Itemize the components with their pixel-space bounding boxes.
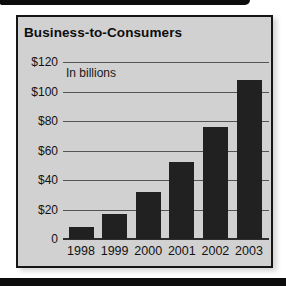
- y-tick-label: $120: [18, 54, 58, 70]
- chart-panel: 0$20$40$60$80$100$1201998199920002001200…: [16, 15, 273, 268]
- y-tick-label: $60: [18, 143, 58, 159]
- bottom-rule-bar: [0, 278, 286, 286]
- bar-2001: [169, 162, 194, 239]
- bar-2002: [203, 127, 228, 239]
- y-tick-label: $40: [18, 172, 58, 188]
- chart-title: Business-to-Consumers: [24, 25, 182, 40]
- bar-1999: [102, 214, 127, 239]
- gridline: [63, 62, 269, 63]
- y-tick-label: $20: [18, 202, 58, 218]
- top-rule-bar: [0, 0, 250, 5]
- y-tick-label: 0: [18, 231, 58, 247]
- x-tick-label: 2003: [229, 244, 269, 258]
- plot-area: 0$20$40$60$80$100$1201998199920002001200…: [18, 17, 271, 266]
- page: 0$20$40$60$80$100$1201998199920002001200…: [0, 0, 286, 286]
- y-tick-label: $100: [18, 84, 58, 100]
- bar-2000: [136, 192, 161, 239]
- units-label: In billions: [66, 66, 116, 80]
- y-tick-label: $80: [18, 113, 58, 129]
- bar-2003: [237, 80, 262, 239]
- bar-1998: [69, 227, 94, 239]
